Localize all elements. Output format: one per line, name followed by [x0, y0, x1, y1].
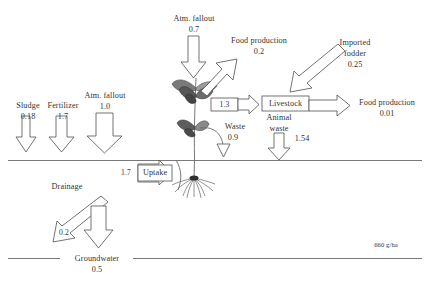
- uptake-value: 1.7: [116, 168, 136, 177]
- drainage-label: Drainage: [38, 182, 96, 191]
- imported-fodder-value: 0.25: [324, 60, 386, 69]
- waste-value: 0.9: [218, 133, 248, 142]
- sludge-value: 0.18: [8, 112, 48, 121]
- animal-waste-label-1: Animal: [255, 113, 303, 122]
- atm-fallout-plant-value: 0.7: [163, 25, 225, 34]
- imported-fodder-label-2: fodder: [324, 49, 386, 58]
- atm-fallout-soil-label: Atm. fallout: [78, 91, 132, 100]
- atm-fallout-soil-arrow: [87, 113, 122, 153]
- drainage-value: 0.2: [53, 228, 75, 237]
- groundwater-value: 0.5: [62, 265, 132, 274]
- animal-waste-label-2: waste: [255, 124, 303, 133]
- groundwater-label: Groundwater: [62, 254, 132, 263]
- fertilizer-value: 1.7: [43, 112, 83, 121]
- food-production-livestock-arrow: [309, 95, 350, 116]
- uptake-label: Uptake: [138, 168, 172, 177]
- atm-fallout-soil-value: 1.0: [78, 102, 132, 111]
- food-production-livestock-label: Food production: [347, 98, 427, 107]
- waste-arrowhead: [217, 144, 230, 157]
- food-production-plant-arrow: [201, 59, 237, 96]
- total-unit-label: 660 g/ha: [357, 240, 415, 249]
- livestock-label: Livestock: [262, 99, 309, 108]
- food-production-plant-label: Food production: [221, 36, 297, 45]
- plant-to-livestock-value: 1.3: [211, 100, 238, 109]
- atm-fallout-plant-arrow: [181, 36, 206, 78]
- waste-label: Waste: [218, 122, 252, 131]
- atm-fallout-plant-label: Atm. fallout: [163, 14, 225, 23]
- sludge-label: Sludge: [8, 101, 48, 110]
- plant-illustration: [172, 78, 217, 198]
- animal-waste-value: 1.54: [288, 134, 316, 143]
- plant-to-livestock-arrow: [238, 95, 259, 114]
- fertilizer-label: Fertilizer: [43, 101, 83, 110]
- diagram-canvas: Sludge 0.18 Fertilizer 1.7 Atm. fallout …: [0, 0, 430, 282]
- food-production-plant-value: 0.2: [221, 47, 297, 56]
- animal-waste-arrow: [268, 133, 290, 160]
- imported-fodder-label-1: Imported: [324, 38, 386, 47]
- food-production-livestock-value: 0.01: [347, 109, 427, 118]
- uptake-connector: [176, 160, 181, 190]
